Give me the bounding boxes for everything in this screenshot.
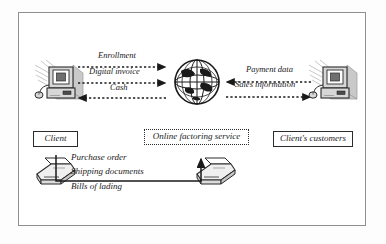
- flow-label-digital-invoice: Digital invoice: [89, 67, 140, 76]
- doc-label-bills-of-lading: Bills of lading: [71, 182, 122, 191]
- customer-computer: [307, 59, 363, 111]
- flow-label-payment-data: Payment data: [246, 65, 293, 74]
- box-clients-customers: Client's customers: [273, 131, 353, 147]
- globe-icon: [171, 55, 223, 109]
- figure-frame: Enrollment Digital invoice Cash: [18, 12, 366, 226]
- internet-globe: [171, 55, 223, 109]
- figure-canvas: Enrollment Digital invoice Cash: [0, 0, 386, 244]
- flow-label-sales-information: Sales information: [235, 80, 295, 89]
- flow-label-enrollment: Enrollment: [98, 51, 136, 60]
- box-online-factoring-service: Online factoring service: [144, 129, 249, 145]
- doc-label-shipping-documents: Shipping documents: [71, 167, 144, 176]
- flow-label-cash: Cash: [110, 83, 127, 92]
- desktop-computer-icon: [307, 59, 363, 111]
- box-client: Client: [33, 131, 78, 147]
- right-flow-arrows: [225, 71, 317, 111]
- doc-label-purchase-order: Purchase order: [71, 153, 127, 162]
